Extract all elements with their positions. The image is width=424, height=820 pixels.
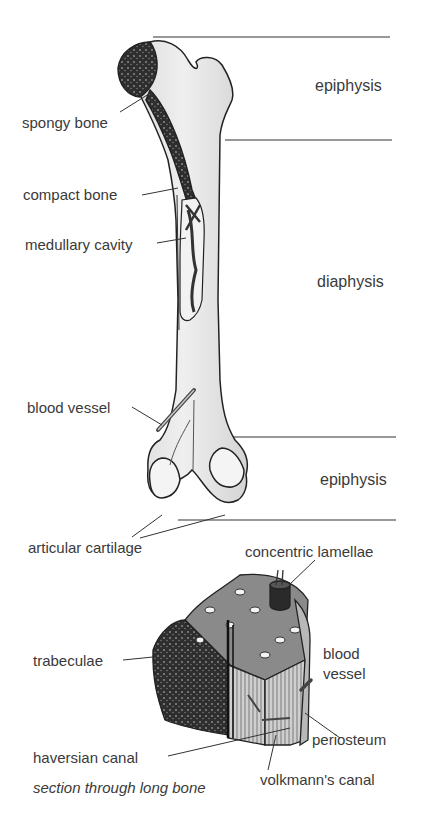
bone-section-block xyxy=(153,570,311,745)
leader-blood-vessel xyxy=(132,407,162,425)
label-trabeculae: trabeculae xyxy=(33,653,103,668)
region-label-diaphysis: diaphysis xyxy=(317,274,384,290)
label-volkmanns-canal: volkmann's canal xyxy=(260,772,375,787)
label-concentric-lamellae: concentric lamellae xyxy=(245,544,373,559)
label-articular-cartilage: articular cartilage xyxy=(28,540,142,555)
label-blood-vessel: blood vessel xyxy=(27,400,110,415)
label-periosteum: periosteum xyxy=(312,732,386,747)
label-haversian-canal: haversian canal xyxy=(33,750,138,765)
leader-concentric-lamellae xyxy=(289,560,315,585)
long-bone xyxy=(118,41,247,503)
region-label-epiphysis-bottom: epiphysis xyxy=(320,472,387,488)
leader-trabeculae xyxy=(123,657,153,660)
label-spongy-bone: spongy bone xyxy=(22,115,108,130)
label-blood-vessel-section-line1: blood xyxy=(323,646,360,661)
diagram-caption: section through long bone xyxy=(33,780,206,795)
label-blood-vessel-section-line2: vessel xyxy=(323,666,366,681)
region-label-epiphysis-top: epiphysis xyxy=(315,78,382,94)
leader-articular-cartilage-2 xyxy=(140,515,225,538)
label-medullary-cavity: medullary cavity xyxy=(25,237,133,252)
label-compact-bone: compact bone xyxy=(23,187,117,202)
